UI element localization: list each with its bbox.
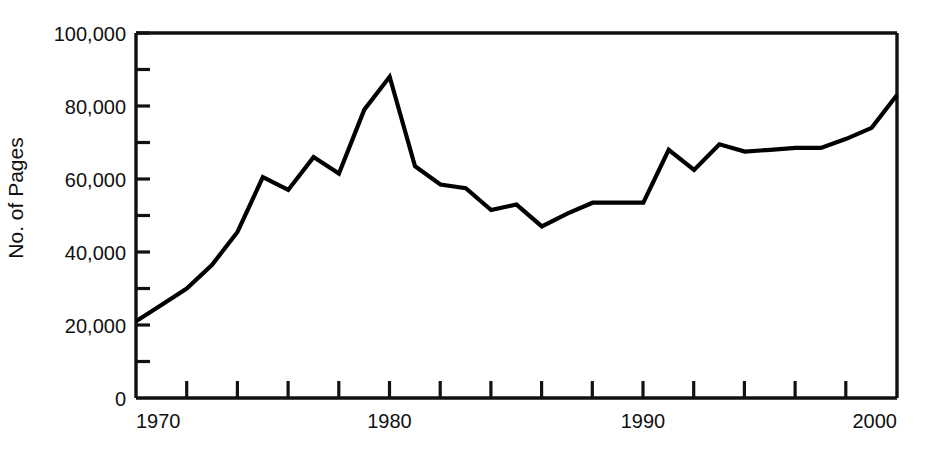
data-series-line [136,77,897,322]
x-tick-labels: 1970 1980 1990 2000 [136,410,897,432]
y-tick-label-40000: 40,000 [65,242,126,264]
x-tick-label-2000: 2000 [853,410,898,432]
y-tick-label-80000: 80,000 [65,96,126,118]
x-tick-label-1980: 1980 [367,410,412,432]
y-tick-label-100000: 100,000 [54,23,126,45]
y-tick-label-0: 0 [115,388,126,410]
axis-frame [136,33,897,398]
x-axis-ticks [187,381,846,398]
y-tick-labels: 100,000 80,000 60,000 40,000 20,000 0 [54,23,126,410]
x-tick-label-1990: 1990 [621,410,666,432]
y-tick-label-20000: 20,000 [65,315,126,337]
y-tick-label-60000: 60,000 [65,169,126,191]
x-tick-label-1970: 1970 [136,410,181,432]
line-chart-plot: 100,000 80,000 60,000 40,000 20,000 0 19… [0,0,929,452]
figure-container: No. of Pages [0,0,929,452]
